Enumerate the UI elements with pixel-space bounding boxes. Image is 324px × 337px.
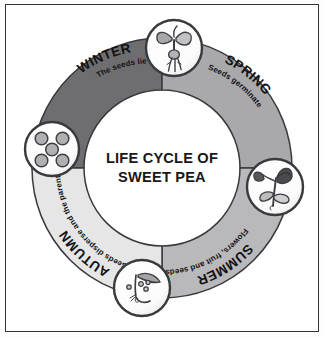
center-title-group: LIFE CYCLE OF SWEET PEA bbox=[106, 150, 218, 185]
life-cycle-poster: WINTER The seeds lie dormant in the soil… bbox=[0, 0, 324, 337]
node-seeds[interactable] bbox=[25, 122, 79, 176]
life-cycle-diagram: WINTER The seeds lie dormant in the soil… bbox=[0, 0, 324, 337]
node-seed-pod[interactable] bbox=[114, 260, 170, 316]
page-title-line1: LIFE CYCLE OF bbox=[106, 150, 218, 166]
node-flowering-plant[interactable] bbox=[247, 159, 303, 215]
node-seedling[interactable] bbox=[146, 20, 202, 76]
page-title-line2: SWEET PEA bbox=[118, 169, 206, 185]
